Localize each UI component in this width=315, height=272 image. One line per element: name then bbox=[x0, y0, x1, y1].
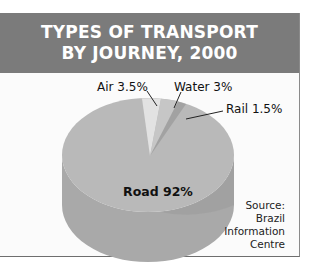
source-line1: Source: bbox=[224, 199, 285, 212]
source-note: Source: Brazil Information Centre bbox=[224, 199, 285, 251]
label-water: Water 3% bbox=[174, 80, 232, 94]
label-rail: Rail 1.5% bbox=[226, 102, 282, 116]
source-line2: Brazil bbox=[224, 212, 285, 225]
label-air: Air 3.5% bbox=[97, 80, 148, 94]
source-line4: Centre bbox=[224, 238, 285, 251]
source-line3: Information bbox=[224, 225, 285, 238]
label-road: Road 92% bbox=[123, 184, 193, 199]
